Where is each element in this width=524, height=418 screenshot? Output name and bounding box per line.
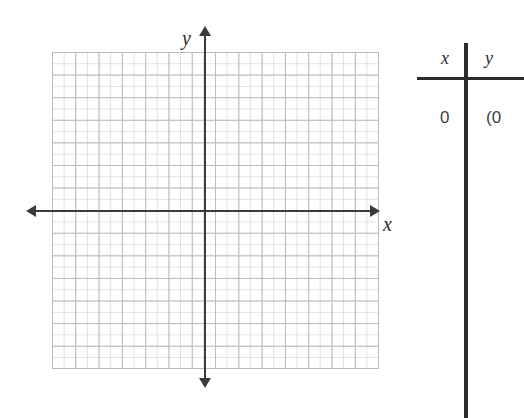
- table-cell-x: 0: [440, 109, 449, 126]
- y-axis-up-arrow-icon: [199, 26, 211, 36]
- y-axis-down-arrow-icon: [199, 378, 211, 388]
- table-header-rule: [417, 77, 524, 80]
- x-axis-left-arrow-icon: [26, 205, 36, 217]
- coordinate-plane: y x: [0, 0, 410, 418]
- y-axis-label: y: [182, 28, 191, 48]
- table-header-x: x: [441, 49, 449, 67]
- table-header-y: y: [485, 49, 493, 67]
- value-table: x y 0 (0: [410, 0, 524, 418]
- x-axis-line: [32, 210, 372, 212]
- y-axis-line: [204, 34, 206, 382]
- table-cell-y: (0: [486, 109, 501, 126]
- table-column-divider: [464, 43, 468, 418]
- worksheet-page: y x x y 0 (0: [0, 0, 524, 418]
- x-axis-label: x: [383, 214, 392, 234]
- x-axis-right-arrow-icon: [370, 205, 380, 217]
